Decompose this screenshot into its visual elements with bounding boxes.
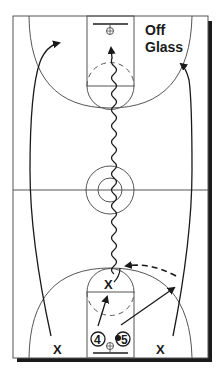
title-line-1: Off xyxy=(145,22,166,38)
player-x-elbow: X xyxy=(104,277,113,292)
svg-text:4: 4 xyxy=(94,333,101,347)
svg-text:5: 5 xyxy=(121,333,128,347)
player-4-marker: 4 xyxy=(91,332,105,347)
player-x-right-wing: X xyxy=(156,342,165,357)
player-x-left-wing: X xyxy=(53,342,62,357)
title-line-2: Glass xyxy=(145,39,183,55)
basketball-court-diagram: Off Glass X X X 4 5 xyxy=(0,0,221,380)
